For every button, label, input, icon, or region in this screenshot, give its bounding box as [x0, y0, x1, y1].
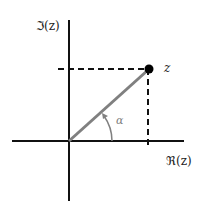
complex-plane-diagram: ℑ(z) ℜ(z) z α — [0, 0, 207, 213]
angle-arc — [104, 116, 112, 141]
imag-axis-label: ℑ(z) — [36, 19, 60, 33]
vector-z — [69, 70, 148, 141]
angle-label: α — [116, 114, 124, 127]
point-z — [145, 65, 154, 74]
point-label: z — [163, 61, 171, 75]
real-axis-label: ℜ(z) — [166, 154, 192, 168]
